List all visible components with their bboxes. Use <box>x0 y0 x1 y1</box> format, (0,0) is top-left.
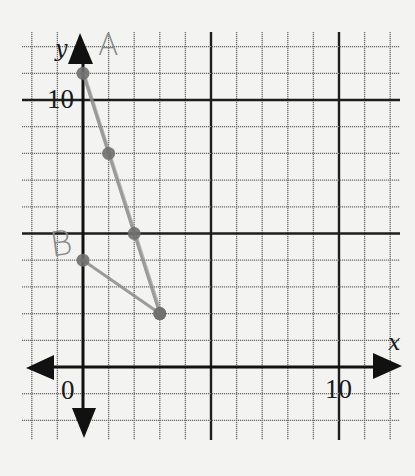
point-b <box>77 254 90 267</box>
x-axis-label: x <box>388 332 400 354</box>
y-axis-down-arrow-icon <box>72 408 96 438</box>
y-tick-label-10: 10 <box>47 86 74 113</box>
x-axis-left-arrow-icon <box>26 355 54 380</box>
x-axis-right-arrow-icon <box>373 353 402 379</box>
point-b <box>153 307 166 320</box>
point-a <box>77 67 90 80</box>
graph-worksheet: y x 10 10 0 A B <box>0 0 415 476</box>
y-axis-up-arrow-icon <box>68 33 93 64</box>
line-a-label: A <box>98 30 119 60</box>
y-axis-label: y <box>55 38 67 60</box>
line-a-second-stroke <box>86 77 162 313</box>
line-b-label: B <box>48 225 75 262</box>
x-tick-label-10: 10 <box>325 376 352 403</box>
point-a <box>102 147 115 160</box>
point-a <box>128 227 141 240</box>
origin-label: 0 <box>61 377 75 404</box>
line-a <box>83 73 160 313</box>
